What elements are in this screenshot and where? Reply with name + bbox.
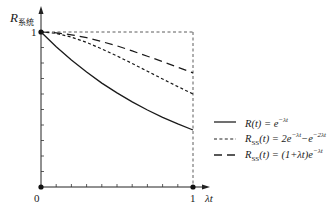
x-one-point: [190, 184, 195, 189]
x-tick-label-1: 1: [190, 192, 196, 204]
y-tick-label-1: 1: [31, 26, 37, 38]
series-line-solid: [41, 32, 193, 130]
x-axis-label: λt: [204, 192, 214, 204]
short-dash-swatch-icon: [214, 135, 236, 143]
x-axis-arrow-icon: [202, 185, 210, 190]
legend-item-standby-b: RSS(t) = (1+λt)e−λt: [210, 147, 336, 164]
legend-label-standby-b: RSS(t) = (1+λt)e−λt: [245, 147, 323, 163]
x-tick-label-0: 0: [34, 192, 40, 204]
legend-label-single: R(t) = e−λt: [245, 116, 288, 129]
legend-label-standby-a: RSS(t) = 2e−λt−e−2λt: [245, 131, 326, 147]
legend: R(t) = e−λt RSS(t) = 2e−λt−e−2λt RSS(t) …: [210, 114, 336, 164]
legend-item-standby-a: RSS(t) = 2e−λt−e−2λt: [210, 131, 336, 148]
solid-line-swatch-icon: [214, 118, 236, 126]
legend-item-single: R(t) = e−λt: [210, 114, 336, 131]
series-line-long-dash: [41, 32, 193, 73]
series-lines: [41, 32, 193, 130]
long-dash-swatch-icon: [214, 151, 236, 159]
y-axis-arrow-icon: [39, 6, 44, 14]
reliability-chart: R系统 1 0 1 λt: [0, 0, 336, 213]
origin-point: [38, 184, 43, 189]
y-axis-label: R系统: [9, 10, 34, 27]
series-line-short-dash: [41, 32, 193, 94]
axis-ticks: [41, 48, 178, 188]
